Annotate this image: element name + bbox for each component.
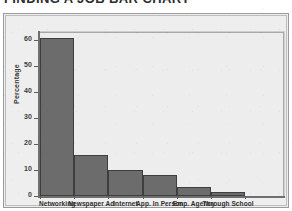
y-tick: 10 (12, 170, 38, 171)
bar (74, 155, 108, 196)
y-tick-mark (34, 92, 38, 93)
y-tick-label: 40 (10, 87, 32, 94)
y-tick-mark (34, 196, 38, 197)
chart-title: FINDING A JOB BAR CHART (4, 0, 288, 5)
y-tick: 60 (12, 40, 38, 41)
y-tick: 40 (12, 92, 38, 93)
x-tick-mark (74, 196, 75, 199)
chart-panel: Percentage 0102030405060 NetworkingNewsp… (3, 13, 289, 208)
y-tick: 20 (12, 144, 38, 145)
bar (143, 175, 177, 196)
y-tick-label: 0 (10, 191, 32, 198)
x-tick-mark (108, 196, 109, 199)
y-axis-ticks: 0102030405060 (12, 32, 38, 196)
bar (108, 170, 142, 196)
x-tick-mark (245, 196, 246, 199)
y-tick-mark (34, 170, 38, 171)
x-axis-label: Through School (202, 200, 254, 207)
bar-series (40, 33, 283, 196)
y-tick-mark (34, 40, 38, 41)
y-tick-label: 30 (10, 113, 32, 120)
x-axis-labels: NetworkingNewspaper AdInternetApp. In Pe… (34, 200, 292, 211)
y-tick-label: 20 (10, 139, 32, 146)
y-tick: 50 (12, 66, 38, 67)
y-tick: 30 (12, 118, 38, 119)
y-tick-label: 10 (10, 165, 32, 172)
y-tick-mark (34, 118, 38, 119)
x-tick-mark (143, 196, 144, 199)
x-tick-mark (40, 196, 41, 199)
y-tick-mark (34, 66, 38, 67)
x-tick-mark (177, 196, 178, 199)
y-tick: 0 (12, 196, 38, 197)
bar (177, 187, 211, 196)
y-tick-label: 60 (10, 35, 32, 42)
y-tick-label: 50 (10, 61, 32, 68)
x-tick-mark (211, 196, 212, 199)
bar (40, 38, 74, 196)
y-tick-mark (34, 144, 38, 145)
